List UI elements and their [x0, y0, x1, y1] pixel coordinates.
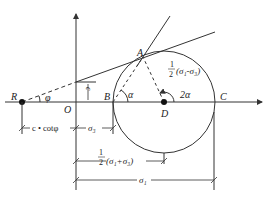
label-B: B	[104, 91, 110, 102]
alpha-angle-arc	[121, 90, 128, 102]
radius-expr: (σ₁-σ₃)	[176, 66, 200, 76]
label-cohesion: c	[84, 87, 93, 91]
mohr-circle-diagram: R O B A D C φ α 2α c 1 2 (σ₁-σ₃) 1 2 (σ₁…	[0, 0, 271, 201]
label-A: A	[136, 47, 144, 58]
phi-angle-arc	[39, 96, 40, 102]
label-D: D	[160, 108, 169, 119]
line-DA-dashed	[143, 57, 164, 102]
label-O: O	[64, 104, 71, 115]
diagram-canvas: R O B A D C φ α 2α c 1 2 (σ₁-σ₃) 1 2 (σ₁…	[0, 0, 271, 201]
label-two-alpha: 2α	[180, 89, 191, 100]
radius-frac-den: 2	[169, 70, 173, 79]
failure-plane-line	[137, 16, 170, 66]
label-c-cot-phi: c • cotφ	[32, 123, 58, 133]
label-R: R	[10, 91, 17, 102]
center-frac-num: 1	[99, 148, 103, 157]
label-alpha: α	[128, 89, 134, 100]
label-sigma3: σ₃	[88, 123, 96, 133]
label-phi: φ	[45, 92, 51, 103]
center-expr: (σ₁+σ₃)	[106, 156, 133, 166]
point-D	[161, 99, 167, 105]
label-sigma1: σ₁	[139, 175, 147, 185]
label-C: C	[220, 91, 227, 102]
center-frac-den: 2	[99, 158, 103, 167]
radius-frac-num: 1	[170, 60, 174, 69]
